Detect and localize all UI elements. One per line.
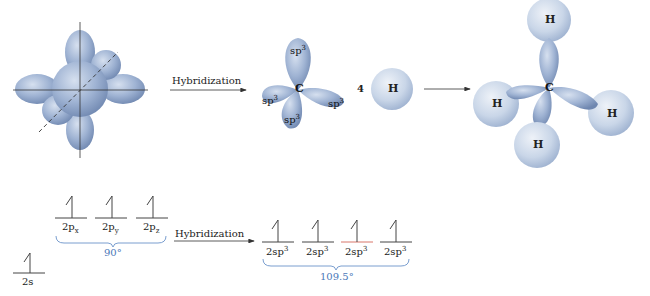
bracket-109 — [263, 259, 409, 270]
p-label-text: 2p — [143, 221, 156, 232]
hybrid-label-text: 2sp — [306, 246, 324, 257]
methane-h-top: H — [545, 13, 555, 26]
methane-h-left: H — [492, 97, 502, 110]
orbital-2py-label: 2py — [102, 221, 119, 235]
orbital-2pz-label: 2pz — [143, 221, 159, 235]
methane-h-bottom: H — [533, 138, 543, 151]
lobe-label-sup: 3 — [296, 113, 300, 121]
hybrid-label-sup: 3 — [324, 245, 328, 253]
hydrogen-label: H — [388, 82, 398, 95]
lobe-label-text: sp — [262, 95, 274, 106]
hybrid-orbital-3-label: 2sp3 — [345, 245, 367, 257]
hybridization-label-2: Hybridization — [175, 228, 244, 239]
lobe-label-text: sp — [328, 98, 340, 109]
hybrid-levels — [262, 220, 412, 242]
lobe-label-sup: 3 — [302, 44, 306, 52]
orbital-2px-label: 2px — [62, 221, 79, 235]
p-label-sub: x — [75, 227, 79, 235]
bracket-90 — [56, 236, 166, 247]
sp3-lobe-left-label: sp3 — [262, 94, 278, 106]
sp3-lobe-top-label: sp3 — [290, 44, 306, 56]
unhybridized-orbitals — [13, 22, 148, 158]
angle-90-label: 90° — [104, 247, 122, 258]
lobe-label-sup: 3 — [340, 97, 344, 105]
hybrid-label-text: 2sp — [266, 246, 284, 257]
coefficient-4: 4 — [357, 83, 364, 94]
orbital-2s-label: 2s — [22, 276, 34, 287]
p-label-text: 2p — [102, 221, 115, 232]
hybrid-orbital-2-label: 2sp3 — [306, 245, 328, 257]
methane-h-right: H — [607, 107, 617, 120]
methane-carbon-label: C — [545, 81, 554, 94]
lobe-label-text: sp — [284, 114, 296, 125]
p-label-sub: y — [115, 227, 119, 235]
carbon-label: C — [295, 82, 304, 95]
p-label-text: 2p — [62, 221, 75, 232]
hybridization-label-1: Hybridization — [172, 75, 241, 86]
lobe-label-sup: 3 — [274, 94, 278, 102]
angle-109-label: 109.5° — [320, 271, 354, 282]
hybrid-label-text: 2sp — [345, 246, 363, 257]
sp3-lobe-bottom-label: sp3 — [284, 113, 300, 125]
hybrid-orbital-4-label: 2sp3 — [384, 245, 406, 257]
sp3-lobe-right-label: sp3 — [328, 97, 344, 109]
hybrid-orbital-1-label: 2sp3 — [266, 245, 288, 257]
lobe-label-text: sp — [290, 45, 302, 56]
hybrid-label-sup: 3 — [402, 245, 406, 253]
hybrid-label-text: 2sp — [384, 246, 402, 257]
hybrid-label-sup: 3 — [363, 245, 367, 253]
p-label-sub: z — [156, 227, 160, 235]
hybrid-label-sup: 3 — [284, 245, 288, 253]
